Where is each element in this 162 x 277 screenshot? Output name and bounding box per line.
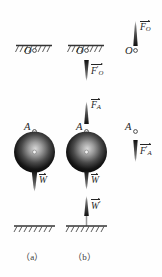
panel-b-point-O-label: O (76, 46, 84, 57)
panel-c-reaction-at-A-vector-label: F′A (140, 146, 152, 157)
panel-b-tension-at-A-vector-label: FA (91, 101, 101, 111)
panel-a-vector-weight (32, 171, 38, 192)
caption-a: （a） (21, 250, 44, 263)
panel-a (14, 46, 55, 233)
panel-a-point-O-label: O (24, 46, 32, 57)
panel-b-ground-hatch (66, 226, 107, 232)
panel-c-force-at-O-vector-label: FO (140, 23, 151, 33)
diagram-canvas (0, 0, 162, 277)
panel-b-vector-reaction-at-O (84, 60, 89, 81)
panel-b-vector-tension-at-A (84, 102, 89, 125)
panel-c-point-O-label: O (125, 46, 133, 57)
panel-a-sphere-center-dot (33, 150, 37, 154)
panel-b-weight-vector-label: W (91, 176, 99, 186)
panel-b-reaction-at-O-vector-label: F′O (91, 66, 103, 77)
panel-c-point-O-marker (134, 49, 138, 53)
panel-c-point-A-label: A (125, 122, 131, 133)
panel-b-vector-weight-reaction (84, 196, 89, 216)
panel-a-weight-vector-label: W (39, 176, 47, 186)
panel-b-point-A-label: A (76, 122, 82, 133)
panel-b-point-O-marker (85, 49, 89, 53)
panel-c-vector-force-at-O (133, 21, 137, 46)
panel-b-weight-reaction-vector-label: W′ (91, 201, 101, 212)
panel-a-ground-hatch (14, 226, 55, 232)
panel-c (133, 21, 137, 162)
panel-b-vector-weight (84, 171, 89, 190)
panel-a-point-O-marker (33, 49, 37, 53)
panel-a-point-A-label: A (24, 122, 30, 133)
caption-b: （b） (73, 250, 96, 263)
panel-c-vector-reaction-at-A (133, 140, 137, 162)
figure-root: O A W O A F′O FA W W′ O A FO F′A （a） （b） (0, 0, 162, 277)
panel-b-sphere-center-dot (85, 150, 89, 154)
panel-c-point-A-marker (134, 130, 138, 134)
